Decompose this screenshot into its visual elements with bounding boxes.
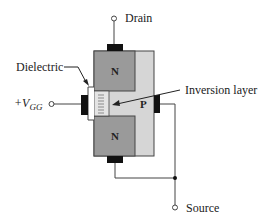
arrowhead-icon (83, 79, 89, 86)
drain-terminal (112, 16, 117, 21)
substrate-wire (160, 104, 175, 205)
mosfet-diagram: Drain Dielectric Inversion layer Source … (0, 0, 262, 219)
dielectric-layer (88, 87, 94, 120)
source-wire (115, 163, 175, 178)
gate-terminal (49, 102, 54, 107)
top-n-label: N (111, 65, 119, 77)
gate-contact (81, 95, 88, 115)
gate-voltage-label: +VGG (14, 96, 43, 112)
source-label: Source (186, 201, 219, 215)
source-contact (107, 156, 123, 163)
source-terminal (173, 205, 178, 210)
dielectric-label: Dielectric (16, 60, 63, 74)
p-substrate-label: P (140, 98, 147, 110)
substrate-contact (154, 95, 160, 113)
dielectric-pointer (64, 67, 86, 82)
inversion-layer-label: Inversion layer (185, 83, 257, 97)
junction-dot (173, 176, 177, 180)
drain-label: Drain (125, 11, 152, 25)
drain-contact (107, 44, 123, 51)
bottom-n-label: N (111, 130, 119, 142)
inversion-electrons (98, 95, 104, 113)
